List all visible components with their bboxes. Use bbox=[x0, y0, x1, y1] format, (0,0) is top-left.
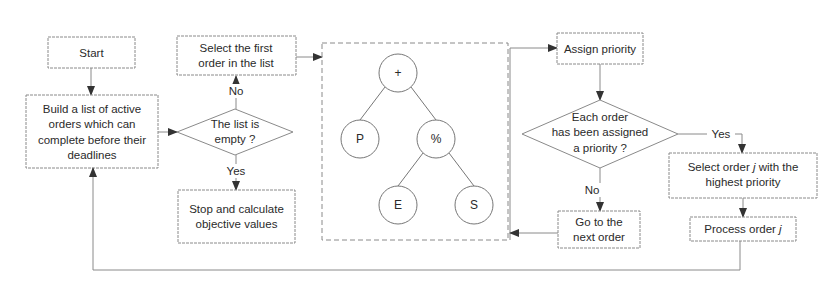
start-node: Start bbox=[48, 37, 135, 68]
select-order-j-line-1: Select order j with the bbox=[688, 161, 799, 173]
tree-edge bbox=[449, 153, 474, 186]
select-order-j-node: Select order j with the highest priority bbox=[669, 153, 817, 198]
next-order-node: Go to the next order bbox=[558, 211, 640, 248]
list-empty-line-2: empty ? bbox=[215, 133, 256, 145]
tree-edge bbox=[360, 87, 385, 120]
start-label: Start bbox=[79, 47, 104, 59]
assign-priority-node: Assign priority bbox=[557, 33, 643, 64]
tree-node-root-label: + bbox=[394, 66, 401, 80]
tree-node-p: P bbox=[341, 120, 379, 158]
assign-priority-label: Assign priority bbox=[564, 43, 636, 55]
build-list-line-1: Build a list of active bbox=[43, 103, 141, 115]
select-order-j-line-2: highest priority bbox=[706, 176, 781, 188]
tree-node-mod: % bbox=[417, 120, 455, 158]
select-first-node: Select the first order in the list bbox=[177, 36, 296, 75]
no-label-2: No bbox=[585, 184, 600, 196]
tree-edge bbox=[398, 153, 423, 186]
each-assigned-line-2: has been assigned bbox=[552, 126, 649, 138]
stop-line-1: Stop and calculate bbox=[189, 203, 284, 215]
each-assigned-decision: Each order has been assigned a priority … bbox=[522, 100, 678, 168]
no-label-1: No bbox=[229, 85, 244, 97]
select-first-line-1: Select the first bbox=[200, 42, 274, 54]
tree-node-e-label: E bbox=[394, 198, 402, 212]
list-empty-line-1: The list is bbox=[211, 118, 260, 130]
process-order-node: Process order j bbox=[690, 217, 796, 241]
tree-node-e: E bbox=[379, 186, 417, 224]
build-list-line-2: orders which can bbox=[49, 118, 136, 130]
next-order-line-2: next order bbox=[573, 231, 625, 243]
tree-node-root: + bbox=[379, 54, 417, 92]
tree-node-mod-label: % bbox=[431, 132, 442, 146]
process-order-label: Process order j bbox=[704, 223, 782, 235]
tree-node-s-label: S bbox=[470, 198, 478, 212]
list-empty-decision: The list is empty ? bbox=[177, 109, 293, 155]
build-list-line-4: deadlines bbox=[67, 149, 116, 161]
stop-line-2: objective values bbox=[196, 218, 278, 230]
tree-edge bbox=[411, 87, 436, 120]
tree-node-p-label: P bbox=[356, 132, 364, 146]
tree-node-s: S bbox=[455, 186, 493, 224]
select-first-line-2: order in the list bbox=[198, 57, 274, 69]
stop-node: Stop and calculate objective values bbox=[178, 190, 295, 243]
build-list-node: Build a list of active orders which can … bbox=[26, 95, 158, 168]
build-list-line-3: complete before their bbox=[38, 134, 146, 146]
each-assigned-line-3: a priority ? bbox=[573, 142, 627, 154]
yes-label-2: Yes bbox=[712, 128, 731, 140]
flowchart-canvas: Start Build a list of active orders whic… bbox=[0, 0, 838, 283]
each-assigned-line-1: Each order bbox=[572, 111, 628, 123]
yes-label-1: Yes bbox=[227, 165, 246, 177]
next-order-line-1: Go to the bbox=[575, 216, 622, 228]
